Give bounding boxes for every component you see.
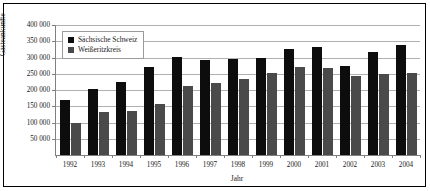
y-axis-tick-label: 250 000 xyxy=(4,70,50,78)
bar xyxy=(379,74,389,155)
bar xyxy=(200,60,210,155)
y-axis-tick-label: 300 000 xyxy=(4,54,50,62)
bar xyxy=(267,73,277,155)
legend-label: Weißeritzkreis xyxy=(78,45,121,55)
bar xyxy=(368,52,378,155)
legend-label: Sächsische Schweiz xyxy=(78,35,137,45)
y-axis-tick-label: 50 000 xyxy=(4,135,50,143)
figure-frame: Gästeankünfte 19921993199419951996199719… xyxy=(3,3,426,187)
bar xyxy=(116,82,126,155)
y-axis-tick-label: 150 000 xyxy=(4,102,50,110)
y-axis-tick-label: 350 000 xyxy=(4,37,50,45)
x-axis-tick-mark xyxy=(224,155,225,158)
bar xyxy=(407,73,417,155)
y-axis-tick-mark xyxy=(52,90,55,91)
bar xyxy=(60,100,70,155)
x-axis-tick-mark xyxy=(252,155,253,158)
bar xyxy=(256,58,266,155)
bar xyxy=(155,104,165,155)
legend-swatch-icon xyxy=(68,47,74,53)
bar xyxy=(323,68,333,155)
x-axis-tick-mark xyxy=(364,155,365,158)
bar xyxy=(351,76,361,155)
x-axis-tick-mark xyxy=(112,155,113,158)
x-axis-tick-mark xyxy=(140,155,141,158)
bar xyxy=(312,47,322,155)
bar xyxy=(88,89,98,155)
bar xyxy=(228,59,238,155)
gridline xyxy=(56,74,420,75)
bar xyxy=(211,83,221,155)
x-axis-tick-mark xyxy=(56,155,57,158)
y-axis-tick-label: 200 000 xyxy=(4,86,50,94)
y-axis-title: Gästeankünfte xyxy=(0,13,7,56)
y-axis-tick-mark xyxy=(52,139,55,140)
y-axis-tick-label: 400 000 xyxy=(4,21,50,29)
x-axis-tick-mark xyxy=(308,155,309,158)
x-axis-tick-mark xyxy=(168,155,169,158)
y-axis-tick-mark xyxy=(52,41,55,42)
y-axis-tick-mark xyxy=(52,25,55,26)
x-axis-title: Jahr xyxy=(55,174,419,183)
y-axis-tick-mark xyxy=(52,58,55,59)
y-axis-tick-mark xyxy=(52,74,55,75)
bar xyxy=(295,67,305,155)
bar xyxy=(127,111,137,155)
bar xyxy=(239,79,249,155)
x-axis-tick-mark xyxy=(196,155,197,158)
x-axis-tick-mark xyxy=(280,155,281,158)
bar xyxy=(71,123,81,155)
x-axis-tick-mark xyxy=(336,155,337,158)
legend-swatch-icon xyxy=(68,37,74,43)
x-axis-tick-mark xyxy=(420,155,421,158)
bar xyxy=(99,112,109,155)
bar xyxy=(284,49,294,155)
bar xyxy=(340,66,350,155)
chart-screenshot: Gästeankünfte 19921993199419951996199719… xyxy=(0,0,430,191)
bar xyxy=(396,45,406,156)
bar xyxy=(183,86,193,155)
legend-item: Sächsische Schweiz xyxy=(68,35,137,45)
gridline xyxy=(56,25,420,26)
chart-legend: Sächsische Schweiz Weißeritzkreis xyxy=(62,31,144,59)
y-axis-tick-mark xyxy=(52,123,55,124)
x-axis-tick-mark xyxy=(84,155,85,158)
y-axis-tick-mark xyxy=(52,106,55,107)
bar xyxy=(172,57,182,155)
legend-item: Weißeritzkreis xyxy=(68,45,137,55)
y-axis-tick-label: 100 000 xyxy=(4,119,50,127)
bar xyxy=(144,67,154,155)
x-axis-tick-label: 2004 xyxy=(386,161,426,170)
x-axis-tick-mark xyxy=(392,155,393,158)
